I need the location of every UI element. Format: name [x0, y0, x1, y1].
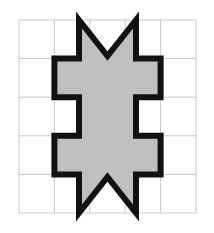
figure-canvas — [0, 0, 214, 233]
figure-svg — [0, 0, 214, 233]
